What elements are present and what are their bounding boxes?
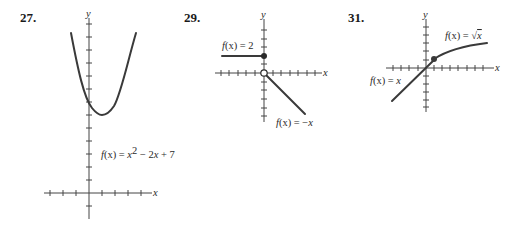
y-axis-label: y bbox=[85, 8, 91, 19]
open-endpoint-circle bbox=[261, 70, 267, 76]
identity-label: f(x) = x bbox=[370, 75, 401, 87]
closed-endpoint-dot bbox=[431, 56, 437, 62]
x-axis-label: x bbox=[152, 187, 158, 198]
figure-number: 29. bbox=[184, 10, 200, 25]
function-label: f(x) = x2 − 2x + 7 bbox=[101, 145, 175, 161]
sqrt-label: f(x) = √x bbox=[445, 30, 482, 42]
figure-29: 29. y x bbox=[184, 9, 328, 129]
negative-identity-segment bbox=[266, 75, 305, 114]
y-axis-label: y bbox=[260, 9, 266, 20]
sqrt-curve bbox=[434, 43, 487, 59]
figure-27: 27. y x bbox=[20, 8, 175, 219]
x-axis-label: x bbox=[494, 62, 500, 73]
parabola-curve bbox=[71, 33, 136, 115]
figure-number: 27. bbox=[20, 10, 36, 25]
figure-number: 31. bbox=[348, 10, 364, 25]
y-axis-label: y bbox=[422, 9, 428, 20]
figure-canvas: 27. y x bbox=[0, 0, 520, 231]
negative-identity-label: f(x) = −x bbox=[276, 117, 313, 129]
constant-label: f(x) = 2 bbox=[222, 40, 254, 52]
figure-31: 31. y x bbox=[348, 9, 500, 112]
x-axis-label: x bbox=[322, 67, 328, 78]
closed-endpoint-dot bbox=[261, 53, 267, 59]
